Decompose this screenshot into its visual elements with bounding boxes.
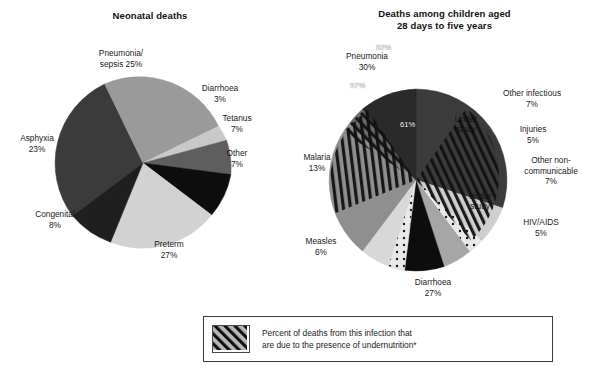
inner-label-diarrhoea-undernutrition: 61% <box>400 120 415 129</box>
label-measles-value: 6% <box>292 247 350 258</box>
label-pneumonia-name: Pneumonia <box>346 51 388 61</box>
label-pneumonia-sepsis-line1: Pneumonia/ <box>99 48 143 58</box>
label-other-value: 7% <box>213 159 261 170</box>
label-preterm-value: 27% <box>138 250 200 261</box>
label-under-study-2-line1: Under <box>469 192 491 201</box>
label-congenital: Congenital 8% <box>20 209 90 230</box>
label-other-non-communicable: Other non- communicable 7% <box>508 155 594 187</box>
label-diarrhoea: Diarrhoea 3% <box>189 83 251 104</box>
label-pneumonia-sepsis-line2: sepsis 25% <box>78 59 164 70</box>
label-hiv-aids-name: HIV/AIDS <box>523 217 559 227</box>
figure-root: Neonatal deaths Pneumonia/ sepsis 25% <box>0 0 599 371</box>
label-injuries-value: 5% <box>506 135 560 146</box>
label-preterm-name: Preterm <box>154 239 184 249</box>
right-chart-title: Deaths among children aged 28 days to fi… <box>290 8 599 32</box>
label-other-infectious: Other infectious 7% <box>486 88 578 109</box>
label-asphyxia: Asphyxia 23% <box>6 133 68 154</box>
label-other-nc-line2: communicable <box>508 166 594 177</box>
label-diarrhoea-right-value: 27% <box>400 288 466 299</box>
label-measles: Measles 6% <box>292 236 350 257</box>
label-injuries: Injuries 5% <box>506 124 560 145</box>
legend-caption-line2: are due to the presence of undernutritio… <box>262 339 417 351</box>
label-hiv-aids-value: 5% <box>508 228 574 239</box>
label-malaria: Malaria 13% <box>290 152 344 173</box>
label-under-study-1: Under study <box>444 115 488 135</box>
label-injuries-name: Injuries <box>520 124 547 134</box>
label-hiv-aids: HIV/AIDS 5% <box>508 217 574 238</box>
legend-hatch-swatch <box>212 325 250 353</box>
label-malaria-name: Malaria <box>303 152 330 162</box>
label-under-study-2-line2: study <box>470 202 490 211</box>
label-other-nc-value: 7% <box>508 176 594 187</box>
legend-box: Percent of deaths from this infection th… <box>203 316 553 362</box>
label-pneumonia-sepsis: Pneumonia/ sepsis 25% <box>78 48 164 69</box>
label-diarrhoea-name: Diarrhoea <box>202 83 238 93</box>
label-congenital-name: Congenital <box>35 209 75 219</box>
label-tetanus: Tetanus 7% <box>209 113 265 134</box>
label-other-name: Other <box>227 148 248 158</box>
legend-caption: Percent of deaths from this infection th… <box>262 327 417 351</box>
left-chart-title: Neonatal deaths <box>0 10 300 22</box>
label-malaria-value: 13% <box>290 163 344 174</box>
label-other: Other 7% <box>213 148 261 169</box>
label-diarrhoea-right: Diarrhoea 27% <box>400 277 466 298</box>
label-asphyxia-name: Asphyxia <box>20 133 54 143</box>
label-other-nc-line1: Other non- <box>531 155 571 165</box>
inner-label-malaria-undernutrition: 57% <box>350 81 365 90</box>
label-tetanus-value: 7% <box>209 124 265 135</box>
label-other-infectious-name: Other infectious <box>503 88 561 98</box>
legend-hatch-icon <box>213 326 247 350</box>
right-chart-title-line1: Deaths among children aged <box>378 8 510 19</box>
label-asphyxia-value: 23% <box>6 144 68 155</box>
legend-caption-line1: Percent of deaths from this infection th… <box>262 327 417 339</box>
label-other-infectious-value: 7% <box>486 99 578 110</box>
label-measles-name: Measles <box>306 236 337 246</box>
child-deaths-panel: Deaths among children aged 28 days to fi… <box>290 0 599 310</box>
label-preterm: Preterm 27% <box>138 239 200 260</box>
right-chart-title-line2: 28 days to five years <box>397 20 492 31</box>
label-diarrhoea-right-name: Diarrhoea <box>415 277 451 287</box>
neonatal-deaths-panel: Neonatal deaths Pneumonia/ sepsis 25% <box>0 0 300 310</box>
label-under-study-1-line1: Under <box>455 115 477 124</box>
label-pneumonia: Pneumonia 30% <box>330 51 404 72</box>
label-tetanus-name: Tetanus <box>222 113 251 123</box>
label-pneumonia-value: 30% <box>330 62 404 73</box>
label-under-study-1-line2: study <box>456 125 476 134</box>
label-diarrhoea-value: 3% <box>189 94 251 105</box>
label-congenital-value: 8% <box>20 220 90 231</box>
label-under-study-2: Under study <box>458 192 502 212</box>
